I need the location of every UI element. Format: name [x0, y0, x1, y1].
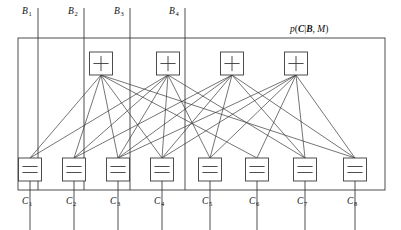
variable-node-box-c7 — [294, 158, 317, 181]
label-b1-subscript: 1 — [28, 10, 31, 17]
label-c6: C6 — [249, 196, 260, 207]
label-b1: B1 — [22, 6, 32, 17]
label-c6-base: C — [249, 196, 256, 206]
edge-f4-c5 — [210, 75, 296, 158]
edge-f1-c3 — [101, 75, 118, 158]
label-c2-subscript: 2 — [73, 200, 76, 207]
edge-f1-c1 — [30, 75, 101, 158]
label-c5-subscript: 5 — [209, 200, 212, 207]
label-b4-base: B — [169, 6, 175, 16]
title-B: B — [305, 24, 312, 34]
label-b2: B2 — [68, 6, 78, 17]
label-b1-base: B — [22, 6, 28, 16]
label-c7: C7 — [297, 196, 308, 207]
label-c5-base: C — [202, 196, 209, 206]
edge-f1-c8 — [101, 75, 355, 158]
label-c1: C1 — [22, 196, 32, 207]
label-c3: C3 — [110, 196, 120, 207]
label-c7-subscript: 7 — [304, 200, 308, 207]
edge-f3-c3 — [118, 75, 232, 158]
joint-distribution-label: p(C|B, M) — [289, 24, 328, 35]
edge-f4-c8 — [296, 75, 355, 158]
label-b4: B4 — [169, 6, 179, 17]
label-c8: C8 — [347, 196, 357, 207]
variable-node-box-c3 — [107, 158, 130, 181]
label-c6-subscript: 6 — [256, 200, 260, 207]
label-c2: C2 — [66, 196, 76, 207]
label-b2-subscript: 2 — [74, 10, 77, 17]
label-c5: C5 — [202, 196, 212, 207]
label-b3-base: B — [114, 6, 120, 16]
bottom-variable-labels: C1C2C3C4C5C6C7C8 — [22, 196, 357, 207]
label-c8-base: C — [347, 196, 354, 206]
edge-f2-c3 — [118, 75, 168, 158]
label-c4: C4 — [154, 196, 165, 207]
edge-f2-c4 — [162, 75, 168, 158]
edge-f1-c6 — [101, 75, 257, 158]
label-b3-subscript: 3 — [120, 10, 123, 17]
check-node-group — [90, 52, 308, 75]
edge-f3-c4 — [162, 75, 232, 158]
variable-node-box-c1 — [19, 158, 42, 181]
label-c7-base: C — [297, 196, 304, 206]
factor-graph-figure: B1B2B3B4 C1C2C3C4C5C6C7C8 p(C|B, M) — [0, 0, 401, 230]
label-c8-subscript: 8 — [354, 200, 357, 207]
edge-f4-c3 — [118, 75, 296, 158]
variable-node-box-c4 — [151, 158, 174, 181]
factor-graph-canvas: B1B2B3B4 C1C2C3C4C5C6C7C8 p(C|B, M) — [0, 0, 401, 230]
edge-f2-c7 — [168, 75, 305, 158]
joint-distribution-text: p(C|B, M) — [289, 24, 328, 35]
label-c1-subscript: 1 — [29, 200, 32, 207]
label-c3-base: C — [110, 196, 117, 206]
edge-f4-c7 — [296, 75, 305, 158]
variable-node-box-c2 — [63, 158, 86, 181]
label-b3: B3 — [114, 6, 124, 17]
label-c4-subscript: 4 — [161, 200, 165, 207]
edge-f3-c8 — [232, 75, 355, 158]
edge-f2-c1 — [30, 75, 168, 158]
label-c2-base: C — [66, 196, 73, 206]
variable-node-box-c8 — [344, 158, 367, 181]
variable-node-box-c6 — [246, 158, 269, 181]
label-b4-subscript: 4 — [175, 10, 179, 17]
variable-node-group — [19, 158, 367, 181]
edge-f2-c2 — [74, 75, 168, 158]
edge-group — [30, 75, 355, 158]
variable-node-box-c5 — [199, 158, 222, 181]
label-c4-base: C — [154, 196, 161, 206]
label-c3-subscript: 3 — [117, 200, 120, 207]
label-b2-base: B — [68, 6, 74, 16]
top-variable-labels: B1B2B3B4 — [22, 6, 179, 17]
title-close: ) — [325, 24, 328, 35]
label-c1-base: C — [22, 196, 29, 206]
